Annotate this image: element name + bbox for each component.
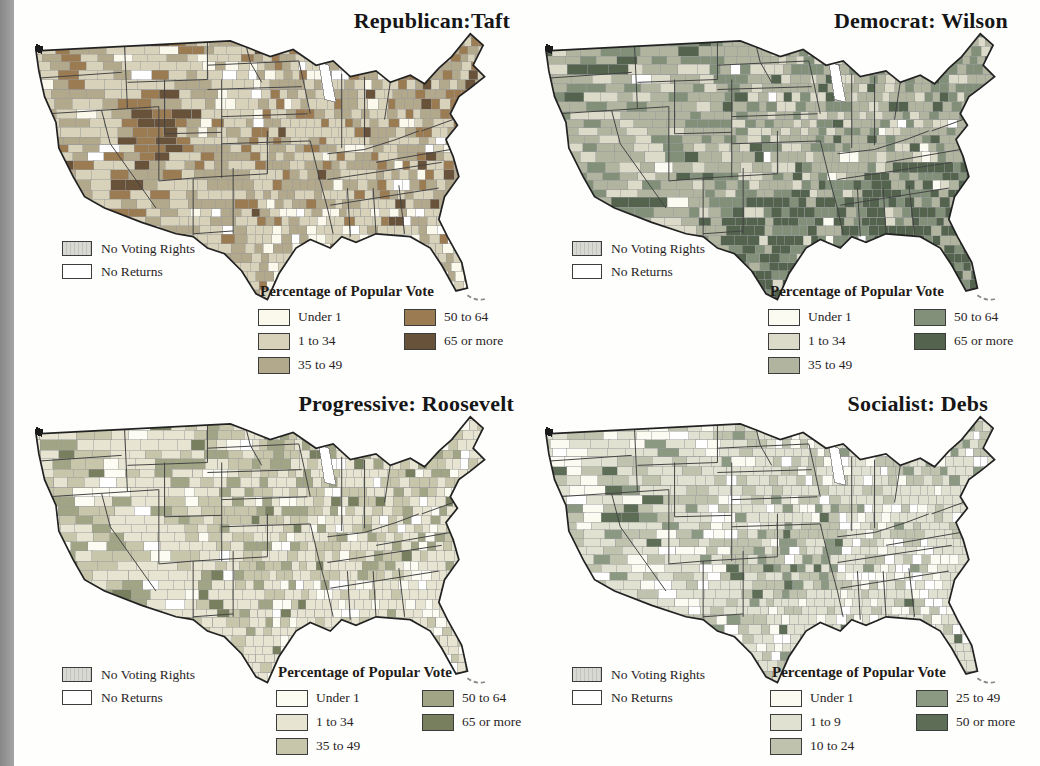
no-returns-swatch — [572, 690, 602, 705]
legend-item-no-voting-rights: No Voting Rights — [62, 663, 195, 686]
vote-legend: Percentage of Popular Vote Under 1 1 to … — [770, 664, 1015, 758]
vote-legend-grid: Under 1 1 to 34 35 to 49 50 to 64 65 or … — [276, 686, 521, 758]
class-swatch — [916, 690, 948, 707]
class-label: 65 or more — [954, 333, 1013, 349]
panel-progressive-roosevelt: Progressive: Roosevelt No Voting Rights … — [14, 383, 520, 766]
vote-legend: Percentage of Popular Vote Under 1 1 to … — [258, 283, 503, 377]
class-swatch — [422, 690, 454, 707]
class-label: 35 to 49 — [316, 738, 360, 754]
class-swatch — [768, 333, 800, 350]
vote-legend-grid: Under 1 1 to 34 35 to 49 50 to 64 65 or … — [768, 305, 1013, 377]
no-voting-rights-swatch — [62, 241, 92, 256]
legend-item: 65 or more — [404, 333, 503, 350]
class-label: 50 or more — [956, 714, 1015, 730]
no-voting-rights-label: No Voting Rights — [611, 667, 705, 683]
legend-item: 1 to 34 — [276, 714, 422, 731]
class-swatch — [276, 738, 308, 755]
legend-item: 25 to 49 — [916, 690, 1015, 707]
panel-socialist-debs: Socialist: Debs No Voting Rights No Retu… — [524, 383, 1040, 766]
legend-item: Under 1 — [276, 690, 422, 707]
vote-legend-heading: Percentage of Popular Vote — [772, 664, 1015, 681]
class-swatch — [770, 714, 802, 731]
legend-item: 50 or more — [916, 714, 1015, 731]
legend-item: 65 or more — [422, 714, 521, 731]
class-label: 25 to 49 — [956, 690, 1000, 706]
legend-item: 10 to 24 — [770, 738, 916, 755]
vote-legend-grid: Under 1 1 to 34 35 to 49 50 to 64 65 or … — [258, 305, 503, 377]
no-data-legend: No Voting Rights No Returns — [572, 663, 705, 709]
no-voting-rights-swatch — [572, 667, 602, 682]
class-swatch — [768, 357, 800, 374]
class-swatch — [914, 333, 946, 350]
legend-item: 1 to 9 — [770, 714, 916, 731]
class-label: Under 1 — [810, 690, 854, 706]
legend-item: 65 or more — [914, 333, 1013, 350]
class-label: 35 to 49 — [808, 357, 852, 373]
panel-title-taft: Republican:Taft — [354, 8, 510, 34]
no-voting-rights-swatch — [572, 241, 602, 256]
no-returns-swatch — [572, 264, 602, 279]
class-swatch — [258, 309, 290, 326]
panel-republican-taft: Republican:Taft No Voting Rights No Retu… — [14, 0, 520, 383]
vote-legend-heading: Percentage of Popular Vote — [278, 664, 521, 681]
legend-item-no-voting-rights: No Voting Rights — [572, 237, 705, 260]
legend-item: Under 1 — [768, 309, 914, 326]
class-label: Under 1 — [808, 309, 852, 325]
legend-item-no-voting-rights: No Voting Rights — [62, 237, 195, 260]
vote-legend-heading: Percentage of Popular Vote — [770, 283, 1013, 300]
class-label: 50 to 64 — [462, 690, 506, 706]
legend-item: 35 to 49 — [276, 738, 422, 755]
class-label: Under 1 — [316, 690, 360, 706]
no-data-legend: No Voting Rights No Returns — [62, 237, 195, 283]
no-returns-label: No Returns — [611, 264, 673, 280]
legend-item: 1 to 34 — [768, 333, 914, 350]
legend-item: 50 to 64 — [404, 309, 503, 326]
no-data-legend: No Voting Rights No Returns — [572, 237, 705, 283]
no-returns-label: No Returns — [611, 690, 673, 706]
class-swatch — [770, 738, 802, 755]
class-swatch — [422, 714, 454, 731]
class-label: 50 to 64 — [954, 309, 998, 325]
legend-item: Under 1 — [770, 690, 916, 707]
class-label: 1 to 9 — [810, 714, 841, 730]
no-returns-label: No Returns — [101, 690, 163, 706]
legend-item-no-returns: No Returns — [62, 260, 195, 283]
class-label: 1 to 34 — [808, 333, 846, 349]
vote-legend: Percentage of Popular Vote Under 1 1 to … — [768, 283, 1013, 377]
legend-item-no-voting-rights: No Voting Rights — [572, 663, 705, 686]
no-voting-rights-label: No Voting Rights — [101, 667, 195, 683]
no-returns-label: No Returns — [101, 264, 163, 280]
panel-title-roosevelt: Progressive: Roosevelt — [298, 391, 514, 417]
legend-item-no-returns: No Returns — [572, 686, 705, 709]
class-label: 1 to 34 — [298, 333, 336, 349]
no-data-legend: No Voting Rights No Returns — [62, 663, 195, 709]
legend-item-no-returns: No Returns — [572, 260, 705, 283]
legend-item: 35 to 49 — [768, 357, 914, 374]
class-swatch — [404, 309, 436, 326]
legend-item: 35 to 49 — [258, 357, 404, 374]
class-swatch — [916, 714, 948, 731]
class-swatch — [768, 309, 800, 326]
legend-item-no-returns: No Returns — [62, 686, 195, 709]
no-voting-rights-swatch — [62, 667, 92, 682]
class-swatch — [276, 690, 308, 707]
no-voting-rights-label: No Voting Rights — [101, 241, 195, 257]
panel-title-wilson: Democrat: Wilson — [834, 8, 1008, 34]
class-label: 35 to 49 — [298, 357, 342, 373]
class-swatch — [276, 714, 308, 731]
class-label: 10 to 24 — [810, 738, 854, 754]
class-label: 50 to 64 — [444, 309, 488, 325]
legend-item: 50 to 64 — [422, 690, 521, 707]
vote-legend-heading: Percentage of Popular Vote — [260, 283, 503, 300]
class-swatch — [404, 333, 436, 350]
legend-item: 1 to 34 — [258, 333, 404, 350]
class-swatch — [258, 357, 290, 374]
class-label: 65 or more — [462, 714, 521, 730]
no-voting-rights-label: No Voting Rights — [611, 241, 705, 257]
panel-title-debs: Socialist: Debs — [848, 391, 989, 417]
figure-1912-election-county-maps: Republican:Taft No Voting Rights No Retu… — [0, 0, 1040, 766]
vote-legend-grid: Under 1 1 to 9 10 to 24 25 to 49 50 or m… — [770, 686, 1015, 758]
class-swatch — [770, 690, 802, 707]
page-edge-strip — [0, 0, 14, 766]
class-swatch — [914, 309, 946, 326]
